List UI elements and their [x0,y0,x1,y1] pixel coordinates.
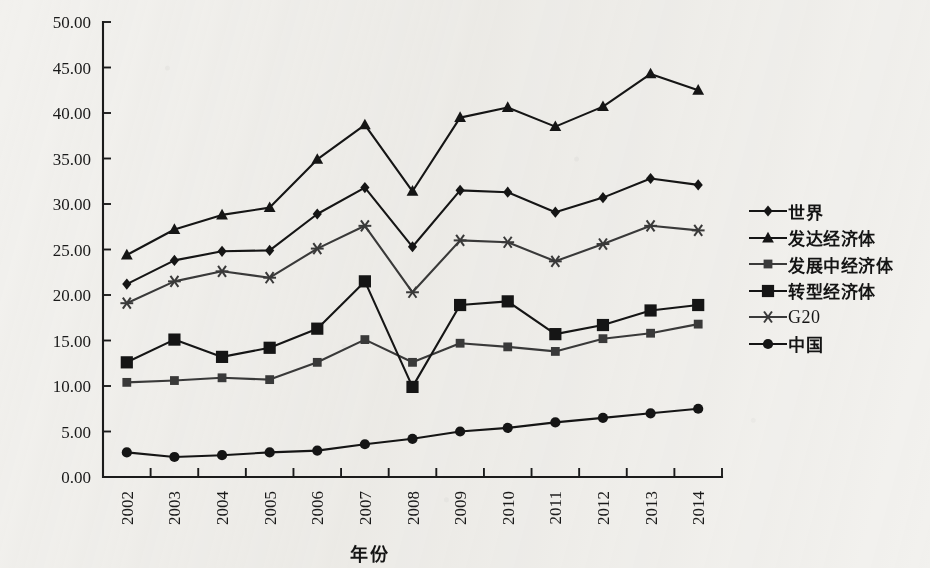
data-point-marker [456,339,465,348]
legend-item-3[interactable]: 转型经济体 [748,278,928,305]
data-point-marker [313,358,322,367]
legend-label: 发达经济体 [788,225,876,250]
y-axis-tick-label: 50.00 [53,13,91,32]
series-5 [122,404,704,462]
data-point-marker [217,450,227,460]
x-axis-tick-label: 2004 [213,491,232,526]
data-point-marker [311,323,323,335]
y-axis-tick-labels: 0.005.0010.0015.0020.0025.0030.0035.0040… [53,13,91,487]
y-axis-tick-label: 20.00 [53,286,91,305]
x-axis-tick-label: 2007 [356,491,375,526]
data-point-marker [360,335,369,344]
data-point-marker [265,447,275,457]
data-point-marker [170,255,179,266]
series-line [127,74,698,255]
data-point-marker [407,434,417,444]
data-point-marker [549,256,562,267]
legend-marker-diamond-icon [748,200,788,222]
x-axis-tick-label: 2009 [451,491,470,525]
series-1 [121,68,704,260]
legend-item-1[interactable]: 发达经济体 [748,225,928,252]
data-point-marker [265,375,274,384]
x-axis-tick-label: 2011 [546,491,565,524]
legend-label: G20 [788,307,821,328]
data-point-marker [551,347,560,356]
x-axis-tick-marks [151,468,722,477]
y-axis-tick-label: 0.00 [61,468,91,487]
legend-label: 转型经济体 [788,278,876,303]
data-point-marker [503,342,512,351]
data-point-marker [597,100,609,111]
data-point-marker [502,101,514,112]
data-point-marker [763,339,773,349]
data-point-marker [692,225,705,236]
x-axis-tick-label: 2003 [165,491,184,525]
data-point-marker [762,312,775,323]
y-axis-tick-label: 5.00 [61,423,91,442]
data-point-marker [644,220,657,231]
data-point-marker [763,206,772,217]
data-point-marker [169,452,179,462]
data-point-marker [645,408,655,418]
data-point-marker [313,208,322,219]
data-point-marker [359,275,371,287]
data-point-marker [218,373,227,382]
legend-item-2[interactable]: 发展中经济体 [748,251,928,278]
data-point-marker [168,276,181,287]
y-axis-tick-label: 10.00 [53,377,91,396]
data-point-marker [264,342,276,354]
data-point-marker [217,246,226,257]
x-axis-title: 年份 [0,540,740,566]
data-point-marker [764,260,773,269]
legend-marker-circle-icon [748,333,788,355]
data-point-marker [693,404,703,414]
data-point-marker [216,266,229,277]
x-axis-tick-label: 2013 [642,491,661,525]
data-point-marker [599,334,608,343]
data-point-marker [694,179,703,190]
data-point-marker [550,417,560,427]
legend-item-4[interactable]: G20 [748,304,928,331]
legend-marker-triangle-icon [748,227,788,249]
data-point-marker [360,439,370,449]
data-point-marker [265,245,274,256]
y-axis-tick-label: 40.00 [53,104,91,123]
legend-item-0[interactable]: 世界 [748,198,928,225]
data-point-marker [597,239,610,250]
data-point-marker [598,192,607,203]
data-point-marker [122,447,132,457]
legend-label: 世界 [788,199,823,224]
data-series-layer [120,68,704,462]
data-point-marker [312,446,322,456]
legend-marker-asterisk-icon [748,306,788,328]
data-point-marker [762,285,774,297]
legend-item-5[interactable]: 中国 [748,331,928,358]
data-point-marker [694,320,703,329]
data-point-marker [122,278,131,289]
data-point-marker [359,119,371,130]
series-line [127,281,698,387]
y-axis-tick-marks [103,22,111,432]
y-axis-tick-label: 25.00 [53,241,91,260]
y-axis-tick-label: 45.00 [53,59,91,78]
data-point-marker [692,299,704,311]
series-4 [120,220,704,308]
x-axis-tick-label: 2014 [689,491,708,526]
chart-figure: 0.005.0010.0015.0020.0025.0030.0035.0040… [0,0,930,568]
data-point-marker [645,68,657,79]
data-point-marker [122,378,131,387]
data-point-marker [216,351,228,363]
data-point-marker [501,237,514,248]
data-point-marker [170,376,179,385]
data-point-marker [646,173,655,184]
data-point-marker [503,187,512,198]
data-point-marker [646,329,655,338]
data-point-marker [311,153,323,164]
data-point-marker [551,207,560,218]
data-point-marker [121,249,133,260]
data-point-marker [454,299,466,311]
x-axis-tick-label: 2002 [118,491,137,525]
data-point-marker [358,220,371,231]
x-axis-tick-label: 2005 [261,491,280,525]
data-point-marker [549,328,561,340]
